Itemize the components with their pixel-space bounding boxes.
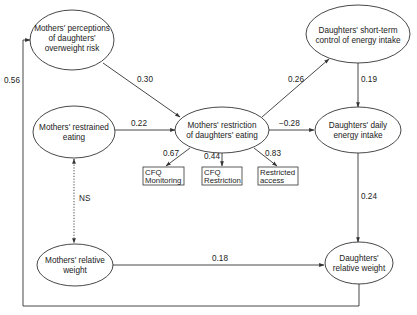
label-0-24: 0.24 [361, 192, 377, 201]
svg-text:overweight risk: overweight risk [45, 44, 101, 53]
node-mothers-restriction: Mothers' restriction of daughters' eatin… [175, 107, 269, 153]
label-0-83: 0.83 [265, 149, 281, 158]
svg-text:Monitoring: Monitoring [145, 176, 181, 185]
svg-text:Mothers' perceptions: Mothers' perceptions [34, 24, 110, 33]
node-mothers-relative-weight: Mothers' relative weight [37, 244, 113, 286]
node-daughters-short-term-control: Daughters' short-term control of energy … [306, 5, 410, 63]
edge-restriction-to-short-term [262, 59, 329, 117]
label-minus-0-28: −0.28 [279, 119, 300, 128]
svg-text:Mothers' relative: Mothers' relative [45, 256, 105, 265]
svg-text:access: access [260, 176, 284, 185]
svg-text:Mothers' restrained: Mothers' restrained [39, 123, 109, 132]
svg-text:Daughters': Daughters' [339, 254, 379, 263]
indicator-cfq-monitoring: CFQ Monitoring [143, 167, 184, 185]
indicator-restricted-access: Restricted access [258, 167, 298, 185]
svg-text:weight: weight [62, 266, 87, 275]
node-daughters-relative-weight: Daughters' relative weight [325, 242, 393, 284]
label-ns: NS [79, 194, 91, 203]
label-0-56: 0.56 [4, 76, 20, 85]
svg-text:eating: eating [63, 133, 86, 142]
edge-perceptions-to-restriction [103, 63, 180, 117]
node-daughters-daily-intake: Daughters' daily energy intake [315, 107, 401, 153]
svg-text:of daughters' eating: of daughters' eating [186, 131, 258, 140]
label-0-18: 0.18 [212, 254, 228, 263]
indicator-cfq-restriction: CFQ Restriction [202, 167, 242, 185]
svg-text:energy intake: energy intake [333, 131, 383, 140]
svg-text:Daughters' short-term: Daughters' short-term [319, 26, 398, 35]
svg-text:Mothers' restriction: Mothers' restriction [188, 121, 257, 130]
path-diagram: 0.30 0.22 0.26 −0.28 0.19 0.24 0.18 0.56… [0, 0, 417, 315]
svg-text:control of energy intake: control of energy intake [315, 36, 401, 45]
label-0-19: 0.19 [361, 75, 377, 84]
node-mothers-perceptions: Mothers' perceptions of daughters' overw… [30, 10, 114, 70]
node-mothers-restrained-eating: Mothers' restrained eating [33, 106, 115, 158]
svg-text:of daughters': of daughters' [48, 34, 96, 43]
svg-text:relative weight: relative weight [333, 264, 386, 273]
label-0-22: 0.22 [131, 119, 147, 128]
label-0-26: 0.26 [288, 75, 304, 84]
label-0-67: 0.67 [163, 149, 179, 158]
svg-text:Daughters' daily: Daughters' daily [329, 121, 388, 130]
label-0-30: 0.30 [137, 75, 153, 84]
svg-text:Restriction: Restriction [204, 176, 241, 185]
